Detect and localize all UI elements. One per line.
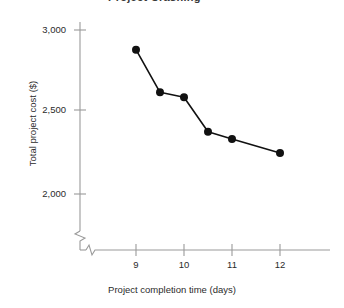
y-tick-label-3000: 3,000 bbox=[20, 24, 66, 35]
data-marker-group bbox=[132, 46, 284, 157]
data-point-12 bbox=[276, 149, 284, 157]
data-line bbox=[136, 50, 280, 153]
x-tick-label-12: 12 bbox=[268, 259, 292, 270]
x-tick-label-9: 9 bbox=[124, 259, 148, 270]
y-axis-break-icon bbox=[75, 231, 85, 250]
data-point-10 bbox=[180, 93, 188, 101]
x-axis-break-icon bbox=[86, 245, 101, 255]
chart-figure: Project Crashing 3,000 2,500 2,000 9 10 … bbox=[0, 0, 344, 308]
data-point-9 bbox=[132, 46, 140, 54]
x-tick-label-10: 10 bbox=[172, 259, 196, 270]
y-axis-title: Total project cost ($) bbox=[27, 59, 38, 189]
x-tick-label-11: 11 bbox=[220, 259, 244, 270]
data-point-11 bbox=[228, 135, 236, 143]
data-point-9.5 bbox=[156, 88, 164, 96]
y-tick-label-2000: 2,000 bbox=[20, 188, 66, 199]
data-point-10.5 bbox=[204, 128, 212, 136]
x-axis-title: Project completion time (days) bbox=[0, 284, 344, 295]
